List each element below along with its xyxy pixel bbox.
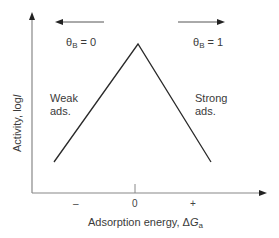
chart-canvas: [0, 0, 279, 238]
theta-zero-label: θB = 0: [66, 36, 96, 52]
right-arrow-head: [217, 19, 225, 25]
weak-adsorption-label: Weak ads.: [50, 92, 78, 118]
y-axis-arrowhead: [29, 12, 35, 20]
x-tick-minus: –: [73, 198, 79, 209]
y-axis-label: Activity, logl: [11, 95, 23, 152]
left-arrow-head: [55, 19, 63, 25]
strong-adsorption-label: Strong ads.: [195, 92, 227, 118]
x-axis-arrowhead: [259, 190, 267, 196]
x-axis-label: Adsorption energy, ΔGa: [88, 216, 203, 232]
theta-one-label: θB = 1: [193, 36, 223, 52]
x-tick-plus: +: [190, 198, 196, 209]
x-tick-zero-label: 0: [132, 198, 138, 209]
